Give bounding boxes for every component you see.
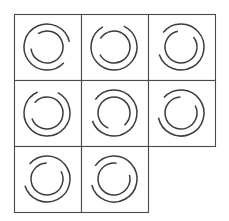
matrix-canvas <box>0 0 229 221</box>
cell-frames-layer <box>15 15 216 213</box>
matrix-puzzle-figure <box>0 0 229 221</box>
